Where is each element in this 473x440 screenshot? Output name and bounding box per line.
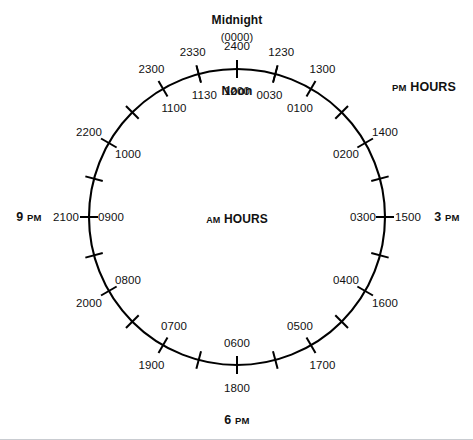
- hour-label-0300: 0300: [350, 211, 376, 223]
- hour-label-0200: 0200: [333, 148, 359, 160]
- hour-label-1600: 1600: [372, 297, 398, 309]
- tick-mark: [159, 81, 168, 97]
- six-pm-suffix: PM: [235, 415, 250, 426]
- am-hours-word: HOURS: [221, 212, 268, 226]
- hour-label-1800: 1800: [224, 382, 250, 394]
- am-hours-label: AM HOURS: [206, 212, 268, 226]
- tick-mark: [307, 81, 316, 97]
- hour-label-1230: 1230: [268, 46, 294, 58]
- tick-mark: [307, 337, 316, 353]
- hour-label-1700: 1700: [310, 359, 336, 371]
- hour-label-0700: 0700: [161, 320, 187, 332]
- hour-label-0900: 0900: [98, 211, 124, 223]
- nine-pm-marker: 9 PM: [16, 210, 41, 224]
- hour-label-0800: 0800: [115, 274, 141, 286]
- hour-label-2300: 2300: [139, 63, 165, 75]
- pm-hours-label: PM HOURS: [392, 80, 456, 94]
- nine-pm-digit: 9: [16, 210, 23, 224]
- three-pm-marker: 3 PM: [434, 210, 459, 224]
- tick-mark: [159, 337, 168, 353]
- tick-mark: [357, 139, 373, 148]
- hour-label-1500: 1500: [395, 211, 421, 223]
- hour-label-1130: 1130: [192, 89, 217, 101]
- hour-label-1000: 1000: [115, 148, 141, 160]
- hour-label-2000: 2000: [76, 297, 102, 309]
- hour-label-2400: 2400: [224, 40, 250, 52]
- pm-smallcaps: PM: [392, 82, 407, 93]
- six-pm-marker: 6 PM: [224, 413, 249, 427]
- hour-label-0400: 0400: [333, 274, 359, 286]
- tick-mark: [101, 287, 117, 296]
- hour-label-1900: 1900: [139, 359, 165, 371]
- diagram-frame: Midnight (0000) Noon AM HOURS PM HOURS 9…: [0, 0, 473, 440]
- hour-label-1200: 1200: [224, 85, 250, 97]
- hour-label-1400: 1400: [372, 126, 398, 138]
- am-smallcaps: AM: [206, 215, 220, 225]
- midnight-label: Midnight: [212, 13, 263, 27]
- six-pm-digit: 6: [224, 413, 231, 427]
- hour-label-2100: 2100: [53, 211, 79, 223]
- hour-label-0100: 0100: [287, 102, 313, 114]
- three-pm-suffix: PM: [445, 212, 460, 223]
- hour-label-2330: 2330: [180, 46, 206, 58]
- hour-label-0030: 0030: [257, 89, 283, 101]
- hour-label-0500: 0500: [287, 320, 313, 332]
- hour-label-1100: 1100: [161, 102, 186, 114]
- pm-hours-word: HOURS: [407, 80, 456, 94]
- hour-label-1300: 1300: [310, 63, 336, 75]
- hour-label-0600: 0600: [224, 337, 250, 349]
- tick-mark: [101, 139, 117, 148]
- nine-pm-suffix: PM: [27, 212, 42, 223]
- tick-mark: [357, 287, 373, 296]
- hour-label-2200: 2200: [76, 126, 102, 138]
- three-pm-digit: 3: [434, 210, 441, 224]
